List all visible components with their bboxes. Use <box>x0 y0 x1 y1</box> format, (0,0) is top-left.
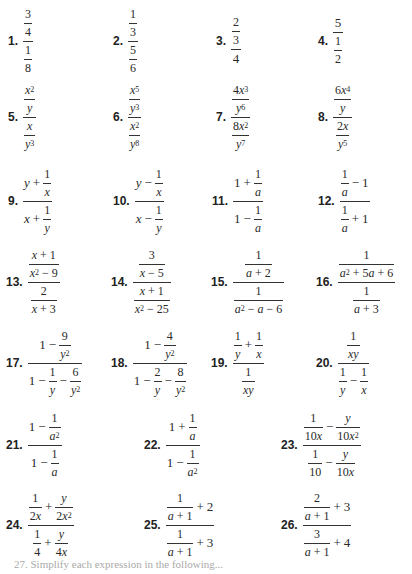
exercise-number: 16. <box>316 275 333 289</box>
next-exercise-text: 27. Simplify each expression in the foll… <box>14 558 223 570</box>
exercise-number: 15. <box>211 275 228 289</box>
complex-fraction: 34 18 <box>23 7 33 76</box>
complex-fraction: 1+1a 1−1a <box>233 167 263 236</box>
exercise-number: 6. <box>113 110 123 124</box>
exercise-7: 7. 4x3y6 8x2y7 <box>216 80 250 154</box>
complex-fraction: 5 12 <box>333 15 343 67</box>
exercise-3: 3. 23 4 <box>216 4 241 78</box>
exercise-number: 13. <box>6 275 23 289</box>
exercise-number: 5. <box>8 110 18 124</box>
exercise-15: 15. 1a+2 1a2−a−6 <box>211 245 284 319</box>
complex-fraction: x5y3 x2y8 <box>128 83 141 152</box>
exercise-number: 4. <box>318 34 328 48</box>
exercise-number: 1. <box>8 34 18 48</box>
exercise-5: 5. x2y xy3 <box>8 80 36 154</box>
exercise-12: 12. 1a−1 1a+1 <box>318 164 370 238</box>
exercise-25: 25. 1a+1+2 1a+1+3 <box>144 488 214 562</box>
exercise-number: 22. <box>144 438 161 452</box>
exercise-number: 7. <box>216 110 226 124</box>
exercise-13: 13. x+1x2−9 2x+3 <box>6 245 60 319</box>
exercise-number: 25. <box>144 518 161 532</box>
exercise-number: 20. <box>316 356 333 370</box>
exercise-26: 26. 2a+1+3 3a+1+4 <box>281 488 351 562</box>
exercise-8: 8. 6x4y 2xy5 <box>318 80 352 154</box>
exercise-number: 19. <box>211 356 228 370</box>
complex-fraction: x+1x2−9 2x+3 <box>28 248 60 317</box>
complex-fraction: 3x−5 x+1x2−25 <box>133 248 171 317</box>
exercise-number: 3. <box>216 34 226 48</box>
exercise-number: 12. <box>318 194 335 208</box>
exercise-number: 10. <box>113 194 130 208</box>
exercise-number: 18. <box>111 356 128 370</box>
exercise-11: 11. 1+1a 1−1a <box>212 164 263 238</box>
exercise-4: 4. 5 12 <box>318 4 343 78</box>
complex-fraction: 13 56 <box>128 7 138 76</box>
exercise-21: 21. 1−1a2 1−1a <box>6 408 62 482</box>
exercise-1: 1. 34 18 <box>8 4 33 78</box>
exercise-20: 20. 1xy 1y−1x <box>316 326 369 400</box>
exercise-16: 16. 1a2+5a+6 1a+3 <box>316 245 395 319</box>
complex-fraction: 1−4y2 1−2y−8y2 <box>133 329 188 398</box>
complex-fraction: 4x3y6 8x2y7 <box>231 83 250 152</box>
exercise-number: 17. <box>6 356 23 370</box>
complex-fraction: 1−1a2 1−1a <box>28 411 62 480</box>
complex-fraction: x2y xy3 <box>23 83 36 152</box>
exercise-22: 22. 1+1a 1−1a2 <box>144 408 200 482</box>
complex-fraction: 1xy 1y−1x <box>338 329 369 398</box>
complex-fraction: y+1x x+1y <box>23 167 52 236</box>
exercise-19: 19. 1y+1x 1xy <box>211 326 264 400</box>
exercise-number: 9. <box>8 194 18 208</box>
complex-fraction: 2a+1+3 3a+1+4 <box>303 491 352 560</box>
complex-fraction: 1−9y2 1−1y−6y2 <box>28 329 83 398</box>
complex-fraction: 1+1a 1−1a2 <box>166 411 200 480</box>
complex-fraction: 110x−y10x2 110−y10x <box>303 411 361 480</box>
exercise-17: 17. 1−9y2 1−1y−6y2 <box>6 326 82 400</box>
exercise-2: 2. 13 56 <box>113 4 138 78</box>
exercise-number: 11. <box>212 194 228 208</box>
exercise-number: 8. <box>318 110 328 124</box>
exercise-number: 2. <box>113 34 123 48</box>
complex-fraction: 23 4 <box>231 15 241 67</box>
exercise-number: 23. <box>281 438 298 452</box>
complex-fraction: 1a+2 1a2−a−6 <box>233 248 285 317</box>
complex-fraction: 1a+1+2 1a+1+3 <box>166 491 215 560</box>
exercise-23: 23. 110x−y10x2 110−y10x <box>281 408 361 482</box>
complex-fraction: y−1x x−1y <box>135 167 164 236</box>
complex-fraction: 12x+y2x2 14+y4x <box>28 491 74 560</box>
exercise-10: 10. y−1x x−1y <box>113 164 164 238</box>
exercise-18: 18. 1−4y2 1−2y−8y2 <box>111 326 187 400</box>
exercise-number: 24. <box>6 518 23 532</box>
exercise-24: 24. 12x+y2x2 14+y4x <box>6 488 74 562</box>
complex-fraction: 6x4y 2xy5 <box>333 83 352 152</box>
exercise-9: 9. y+1x x+1y <box>8 164 52 238</box>
complex-fraction: 1a2+5a+6 1a+3 <box>338 248 396 317</box>
complex-fraction: 1a−1 1a+1 <box>340 167 370 236</box>
exercise-14: 14. 3x−5 x+1x2−25 <box>111 245 171 319</box>
exercise-number: 14. <box>111 275 128 289</box>
exercise-number: 26. <box>281 518 298 532</box>
complex-fraction: 1y+1x 1xy <box>233 329 264 398</box>
exercise-number: 21. <box>6 438 23 452</box>
exercise-6: 6. x5y3 x2y8 <box>113 80 141 154</box>
